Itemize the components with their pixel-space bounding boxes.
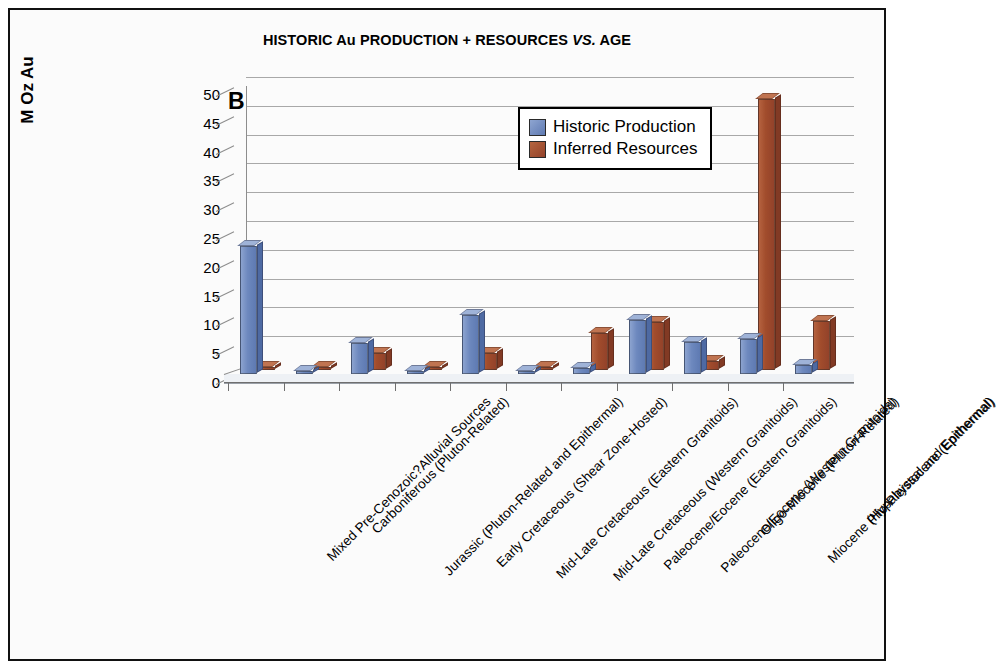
bar-historic-production	[684, 342, 701, 374]
bar-side-face	[608, 328, 614, 369]
x-tick-mark	[284, 382, 285, 391]
x-tick-mark	[228, 382, 229, 391]
y-tick-label: 40	[186, 143, 220, 160]
bar-side-face	[830, 316, 836, 368]
chart-title-italic: VS.	[572, 32, 596, 48]
legend: Historic ProductionInferred Resources	[518, 107, 712, 170]
y-tick-label: 35	[186, 172, 220, 189]
x-axis-line	[224, 382, 854, 383]
gridline	[246, 77, 854, 78]
figure-plate: HISTORIC Au PRODUCTION + RESOURCES VS. A…	[10, 10, 884, 659]
bar-category-group	[454, 84, 510, 374]
bar-historic-production	[462, 315, 479, 374]
chart-title-tail: AGE	[596, 32, 631, 48]
x-tick-mark	[617, 382, 618, 391]
bar-historic-production	[629, 320, 646, 374]
y-tick-label: 10	[186, 316, 220, 333]
y-tick-label: 25	[186, 230, 220, 247]
bar-category-group	[787, 84, 843, 374]
x-tick-mark	[339, 382, 340, 391]
y-tick-label: 5	[186, 345, 220, 362]
bar-side-face	[386, 348, 392, 369]
bar-category-group	[732, 84, 788, 374]
bar-category-group	[343, 84, 399, 374]
y-axis-tick-labels: 05101520253035404550	[180, 94, 220, 390]
bar-face	[795, 365, 812, 374]
bar-side-face	[775, 95, 781, 369]
legend-label: Inferred Resources	[553, 139, 698, 159]
bar-category-group	[232, 84, 288, 374]
chart-title: HISTORIC Au PRODUCTION + RESOURCES VS. A…	[10, 32, 884, 48]
y-axis-title: M Oz Au	[18, 20, 38, 160]
legend-label: Historic Production	[553, 117, 696, 137]
bar-category-group	[288, 84, 344, 374]
legend-item: Inferred Resources	[529, 139, 698, 159]
y-tick-label: 20	[186, 258, 220, 275]
bar-face	[462, 315, 479, 374]
bar-side-face	[701, 337, 707, 373]
x-category-label-text: Carboniferous (Pluton-Related)	[368, 394, 511, 537]
bar-side-face	[479, 311, 485, 373]
bar-side-face	[757, 335, 763, 373]
bar-historic-production	[296, 371, 313, 374]
bar-face	[407, 371, 424, 374]
bar-face	[684, 342, 701, 374]
legend-swatch-historic-production	[529, 119, 546, 136]
x-tick-mark	[506, 382, 507, 391]
x-tick-mark	[728, 382, 729, 391]
bar-historic-production	[573, 368, 590, 374]
legend-item: Historic Production	[529, 117, 698, 137]
x-axis-category-labels: Mixed Pre-Cenozoic?Alluvial SourcesCarbo…	[194, 394, 894, 644]
bar-inferred-resources	[758, 99, 775, 370]
x-category-label: Mixed Pre-Cenozoic?Alluvial Sources	[324, 394, 494, 564]
x-tick-mark	[395, 382, 396, 391]
bar-historic-production	[240, 246, 257, 374]
bar-face	[573, 368, 590, 374]
chart-title-main: HISTORIC Au PRODUCTION + RESOURCES	[263, 32, 572, 48]
bar-historic-production	[740, 339, 757, 374]
bar-category-group	[399, 84, 455, 374]
y-tick-label: 15	[186, 287, 220, 304]
x-category-label-text: Mixed Pre-Cenozoic?Alluvial Sources	[324, 394, 494, 564]
bar-side-face	[497, 348, 503, 369]
y-tick-label: 50	[186, 86, 220, 103]
y-tick-label: 45	[186, 114, 220, 131]
bar-face	[518, 371, 535, 374]
bar-side-face	[664, 317, 670, 369]
bar-historic-production	[518, 371, 535, 374]
bar-face	[296, 371, 313, 374]
bar-side-face	[257, 241, 263, 372]
x-tick-mark	[672, 382, 673, 391]
figure-frame: HISTORIC Au PRODUCTION + RESOURCES VS. A…	[8, 8, 886, 661]
bar-side-face	[646, 315, 652, 373]
y-tick-label: 30	[186, 201, 220, 218]
bar-face	[758, 99, 775, 370]
bar-historic-production	[407, 371, 424, 374]
bar-historic-production	[795, 365, 812, 374]
x-tick-mark	[450, 382, 451, 391]
bar-side-face	[368, 338, 374, 373]
bar-face	[240, 246, 257, 374]
y-tick-label: 0	[186, 374, 220, 391]
x-tick-mark	[783, 382, 784, 391]
bar-face	[351, 343, 368, 374]
bar-face	[629, 320, 646, 374]
bar-historic-production	[351, 343, 368, 374]
legend-swatch-inferred-resources	[529, 141, 546, 158]
x-category-label: Carboniferous (Pluton-Related)	[368, 394, 511, 537]
bar-face	[740, 339, 757, 374]
x-tick-mark	[561, 382, 562, 391]
